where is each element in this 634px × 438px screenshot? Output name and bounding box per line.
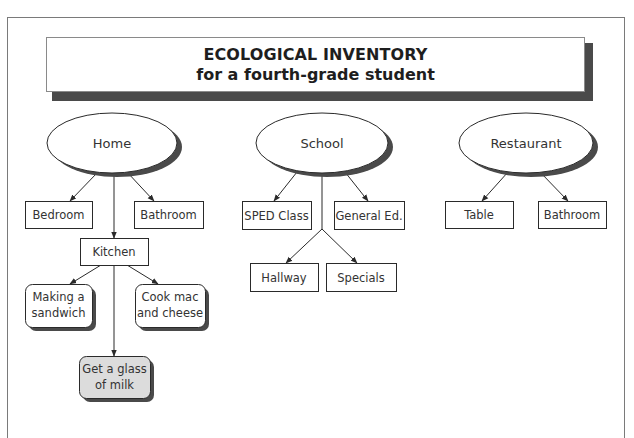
activity-label-line: sandwich: [32, 306, 86, 320]
environment-label: Home: [93, 136, 131, 151]
activity-act-sandwich: Making asandwich: [26, 285, 97, 332]
environment-label: School: [300, 136, 343, 151]
sub-environment-label: Bathroom: [140, 208, 196, 222]
sub-environment-label: Specials: [337, 271, 384, 285]
sub-environment-school-hallway: Hallway: [251, 264, 319, 292]
connector-arrow: [286, 229, 322, 263]
activity-label-line: Making a: [32, 290, 84, 304]
sub-environment-label: Kitchen: [92, 245, 135, 259]
connector-arrow: [482, 172, 508, 201]
environment-school: School: [256, 113, 393, 177]
connector-arrow: [127, 172, 154, 201]
sub-environment-label: Table: [463, 208, 494, 222]
environment-restaurant: Restaurant: [459, 113, 598, 177]
sub-environment-school-gened: General Ed.: [335, 202, 405, 230]
connector-arrow: [70, 265, 101, 284]
connector-arrow: [345, 172, 368, 201]
sub-environment-label: General Ed.: [335, 209, 402, 223]
sub-environment-school-sped: SPED Class: [243, 202, 312, 230]
sub-environment-label: Hallway: [261, 271, 307, 285]
sub-environment-school-specials: Specials: [327, 264, 397, 292]
environment-home: Home: [47, 113, 182, 177]
sub-environment-label: SPED Class: [244, 209, 308, 223]
sub-environment-home-kitchen: Kitchen: [81, 239, 149, 266]
sub-environment-rest-bathroom: Bathroom: [539, 202, 607, 229]
environment-label: Restaurant: [490, 136, 561, 151]
sub-environment-label: Bedroom: [32, 208, 84, 222]
activity-label-line: and cheese: [137, 306, 203, 320]
activity-nodes: Making asandwichCook macand cheeseGet a …: [26, 285, 210, 403]
environment-nodes: HomeSchoolRestaurant: [47, 113, 598, 177]
activity-label-line: Get a glass: [82, 362, 146, 376]
connector-arrow: [322, 229, 357, 263]
sub-environment-home-bedroom: Bedroom: [26, 202, 93, 229]
activity-act-milk: Get a glassof milk: [80, 357, 155, 403]
connector-arrow: [274, 172, 297, 201]
activity-label-line: of milk: [95, 378, 134, 392]
sub-environment-rest-table: Table: [446, 202, 514, 229]
connector-arrow: [127, 265, 158, 284]
sub-environment-nodes: BedroomBathroomKitchenSPED ClassGeneral …: [26, 202, 607, 292]
activity-act-macncheese: Cook macand cheese: [136, 285, 210, 332]
connector-arrow: [70, 173, 97, 201]
sub-environment-label: Bathroom: [544, 208, 600, 222]
activity-label-line: Cook mac: [142, 290, 199, 304]
sub-environment-home-bathroom: Bathroom: [135, 202, 204, 229]
